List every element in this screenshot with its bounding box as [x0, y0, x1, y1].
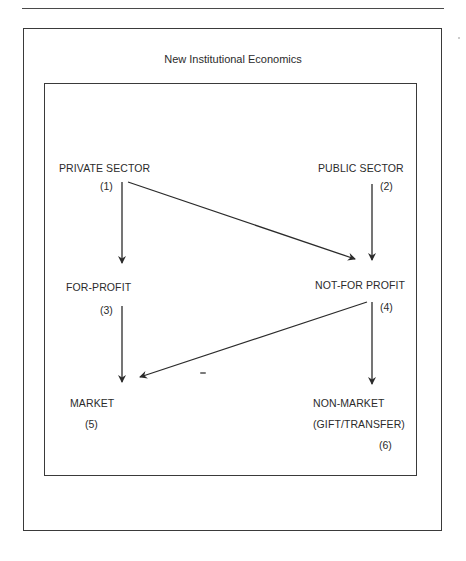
scan-dot	[458, 37, 460, 39]
node-public-sector-label: PUBLIC SECTOR	[318, 162, 404, 174]
top-rule-divider	[22, 8, 444, 9]
node-private-sector-number: (1)	[100, 180, 113, 192]
node-market-label: MARKET	[70, 397, 114, 409]
node-for-profit-label: FOR-PROFIT	[66, 281, 131, 293]
node-public-sector-number: (2)	[380, 180, 393, 192]
node-not-for-profit-number: (4)	[380, 301, 393, 313]
node-non-market-sublabel: (GIFT/TRANSFER)	[313, 418, 405, 430]
node-for-profit-number: (3)	[100, 304, 113, 316]
node-private-sector-label: PRIVATE SECTOR	[59, 162, 150, 174]
scan-speck	[200, 372, 206, 374]
node-market-number: (5)	[85, 418, 98, 430]
node-non-market-number: (6)	[379, 439, 392, 451]
node-non-market-label: NON-MARKET	[313, 397, 385, 409]
diagram-title: New Institutional Economics	[0, 53, 466, 65]
node-not-for-profit-label: NOT-FOR PROFIT	[315, 279, 405, 291]
